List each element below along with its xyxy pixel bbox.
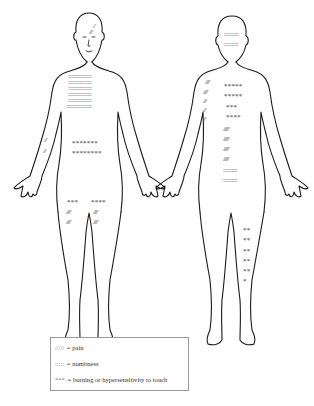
svg-text::::::::::::::: ::::::::::::: — [224, 31, 239, 37]
back-right-body-outline — [236, 62, 308, 212]
front-thigh-pain-marks: ////// ////// ////// ////// — [65, 208, 99, 226]
svg-text:///: /// — [202, 115, 207, 123]
back-upper-burning-marks: ***** ***** *** **** — [224, 82, 243, 121]
back-shoulder-pain-marks: ////// ////// //// /// /// — [202, 78, 211, 123]
svg-text://////: ////// — [202, 88, 209, 96]
pain-symbol: ///// — [55, 344, 66, 351]
svg-text:////////: //////// — [222, 155, 231, 163]
front-right-body-outline — [92, 62, 165, 212]
svg-text:*****: ***** — [224, 82, 243, 90]
svg-text::::::::::::::: ::::::::::::: — [223, 167, 238, 173]
legend-box: ///// = pain ::::: = numbness *** = burn… — [50, 337, 189, 391]
front-abdomen-burning-marks: ******* ******** — [72, 139, 102, 157]
svg-text://////: ////// — [65, 218, 72, 226]
back-head-outline — [216, 16, 249, 62]
burning-symbol: *** — [55, 376, 67, 383]
svg-text:**: ** — [243, 247, 251, 255]
svg-text::::::::::::::: ::::::::::::: — [224, 41, 239, 47]
svg-text://////: ////// — [92, 218, 99, 226]
back-lower-numbness-marks: ::::::::::::: ::::::::::::: — [223, 167, 238, 183]
svg-text:*: * — [243, 277, 247, 285]
front-forehead-pain-mark: // — [92, 22, 97, 30]
front-thigh-burning-marks: *** **** — [67, 198, 106, 206]
svg-text:////////: //////// — [222, 125, 231, 133]
legend-label-pain: = pain — [67, 344, 84, 351]
svg-text:*******: ******* — [72, 139, 98, 147]
svg-text:::::::::::::::::::::::::: :::::::::::::::::::::::: — [66, 103, 93, 109]
back-lower-pain-marks: //////// //////// //////// //////// — [222, 125, 231, 163]
legend-item-numbness: ::::: = numbness — [55, 360, 99, 367]
back-legs-outline — [200, 212, 264, 345]
legend-item-pain: ///// = pain — [55, 344, 84, 351]
svg-text:*****: ***** — [224, 92, 243, 100]
back-left-body-outline — [156, 62, 228, 212]
legend-label-numbness: = numbness — [67, 360, 99, 367]
svg-text:***: *** — [67, 198, 78, 206]
svg-text:**: ** — [243, 226, 251, 234]
svg-text:///: /// — [43, 136, 48, 144]
svg-text:****: **** — [226, 113, 241, 121]
numbness-symbol: ::::: — [55, 360, 66, 367]
svg-text://////: ////// — [204, 78, 211, 86]
svg-text:////: //// — [202, 97, 208, 105]
front-legs-outline — [58, 212, 121, 345]
svg-text:////////: //////// — [222, 135, 231, 143]
svg-text:////////: //////// — [222, 145, 231, 153]
svg-text:///: /// — [202, 106, 207, 114]
svg-text:***: *** — [226, 103, 237, 111]
svg-text:///: /// — [42, 147, 47, 155]
svg-text:**: ** — [243, 236, 251, 244]
svg-text:**: ** — [243, 257, 251, 265]
svg-text::::::::::::::: ::::::::::::: — [223, 177, 238, 183]
back-head-numbness-marks: ::::::::::::: ::::::::::::: — [224, 31, 239, 47]
svg-text:****: **** — [91, 198, 106, 206]
front-face-details — [83, 37, 95, 52]
svg-text://////: ////// — [65, 208, 72, 216]
svg-text:**: ** — [243, 267, 251, 275]
front-forearm-pain-marks: /// /// — [42, 136, 48, 155]
front-figure: // //// :::::::::::::::::::::: :::::::::… — [14, 13, 165, 345]
front-head-outline — [74, 13, 105, 62]
legend-item-burning: *** = burning or hypersensitivity to tou… — [55, 376, 167, 383]
svg-text:********: ******** — [72, 149, 102, 157]
back-figure: ::::::::::::: ::::::::::::: ////// /////… — [156, 16, 308, 345]
legend-label-burning: = burning or hypersensitivity to touch — [68, 376, 168, 383]
back-calf-burning-marks: ** ** ** ** ** * — [243, 226, 251, 285]
svg-text://////: ////// — [92, 208, 99, 216]
front-chest-numbness-marks: :::::::::::::::::::::: :::::::::::::::::… — [66, 73, 93, 109]
